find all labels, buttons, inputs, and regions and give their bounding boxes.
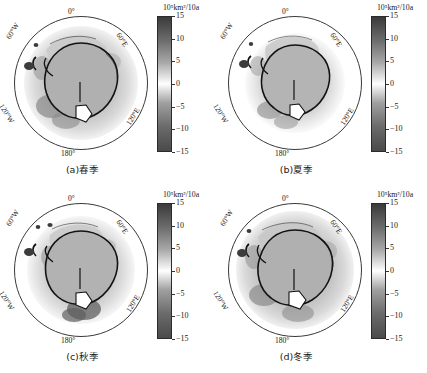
- lon-label-top-autumn: 0°: [68, 194, 75, 203]
- lon-label-bottom-winter: 180°: [275, 336, 289, 345]
- lon-label-bottom-summer: 180°: [275, 149, 289, 158]
- panel-caption-summer: (b)夏季: [214, 162, 379, 176]
- colorbar-tick-mark: [172, 84, 175, 85]
- panel-caption-winter: (d)冬季: [214, 349, 379, 363]
- colorbar-tick-label: −15: [390, 148, 403, 156]
- colorbar-tick-mark: [386, 248, 389, 249]
- colorbar-tick-label: 0: [390, 80, 394, 88]
- colorbar-tick-label: 15: [390, 12, 398, 20]
- map-graphic-spring: [6, 10, 156, 158]
- colorbar-tick-label: 15: [176, 199, 184, 207]
- panel-winter: 0° 180° 60°W 60°E 120°W 120°E (d)冬季 10⁵k…: [214, 187, 427, 373]
- colorbar-tick-label: −15: [176, 335, 189, 343]
- map-graphic-summer: [220, 10, 370, 158]
- colorbar-tick-label: −5: [176, 103, 185, 111]
- colorbar-tick-label: 15: [176, 12, 184, 20]
- colorbar-tick-mark: [172, 152, 175, 153]
- colorbar-tick-mark: [386, 61, 389, 62]
- colorbar-tick-label: 5: [176, 244, 180, 252]
- colorbar-tick-label: −10: [176, 125, 189, 133]
- colorbar-tick-mark: [386, 226, 389, 227]
- colorbar-tick-label: −10: [176, 312, 189, 320]
- colorbar-tick-mark: [172, 339, 175, 340]
- colorbar-tick-mark: [386, 339, 389, 340]
- colorbar-group-spring: 10⁵km²/10a 151050−5−10−15: [153, 3, 209, 161]
- colorbar-ticks-spring: 151050−5−10−15: [174, 11, 208, 157]
- colorbar-tick-mark: [172, 316, 175, 317]
- colorbar-tick-label: 0: [176, 80, 180, 88]
- colorbar-tick-label: 10: [390, 222, 398, 230]
- colorbar-autumn: [157, 203, 172, 339]
- colorbar-tick-label: 5: [176, 57, 180, 65]
- map-summer: 0° 180° 60°W 60°E 120°W 120°E: [220, 10, 370, 158]
- colorbar-tick-mark: [172, 107, 175, 108]
- colorbar-tick-label: 5: [390, 57, 394, 65]
- colorbar-tick-mark: [172, 16, 175, 17]
- colorbar-tick-label: −10: [390, 125, 403, 133]
- colorbar-tick-mark: [386, 129, 389, 130]
- colorbar-tick-mark: [172, 226, 175, 227]
- panel-spring: 0° 180° 60°W 60°E 120°W 120°E (a)春季 10⁵k…: [0, 0, 213, 186]
- map-graphic-winter: [220, 197, 370, 345]
- colorbar-tick-label: −15: [390, 335, 403, 343]
- colorbar-ticks-winter: 151050−5−10−15: [388, 198, 422, 344]
- colorbar-tick-label: 5: [390, 244, 394, 252]
- colorbar-tick-label: 0: [176, 267, 180, 275]
- colorbar-group-winter: 10⁵km²/10a 151050−5−10−15: [367, 190, 423, 348]
- colorbar-tick-mark: [386, 271, 389, 272]
- colorbar-group-summer: 10⁵km²/10a 151050−5−10−15: [367, 3, 423, 161]
- colorbar-tick-label: 10: [176, 35, 184, 43]
- map-winter: 0° 180° 60°W 60°E 120°W 120°E: [220, 197, 370, 345]
- colorbar-tick-mark: [386, 316, 389, 317]
- colorbar-tick-mark: [172, 39, 175, 40]
- colorbar-tick-label: −10: [390, 312, 403, 320]
- colorbar-tick-mark: [172, 129, 175, 130]
- colorbar-tick-mark: [386, 203, 389, 204]
- colorbar-tick-mark: [172, 271, 175, 272]
- colorbar-tick-mark: [386, 107, 389, 108]
- panel-autumn: 0° 180° 60°W 60°E 120°W 120°E (c)秋季 10⁵k…: [0, 187, 213, 373]
- colorbar-tick-label: −5: [390, 103, 399, 111]
- colorbar-tick-mark: [172, 248, 175, 249]
- colorbar-tick-mark: [386, 16, 389, 17]
- colorbar-group-autumn: 10⁵km²/10a 151050−5−10−15: [153, 190, 209, 348]
- colorbar-tick-label: −5: [390, 290, 399, 298]
- map-autumn: 0° 180° 60°W 60°E 120°W 120°E: [6, 197, 156, 345]
- colorbar-ticks-summer: 151050−5−10−15: [388, 11, 422, 157]
- colorbar-tick-mark: [386, 84, 389, 85]
- colorbar-tick-label: 10: [176, 222, 184, 230]
- colorbar-summer: [371, 16, 386, 152]
- colorbar-winter: [371, 203, 386, 339]
- panel-caption-autumn: (c)秋季: [0, 349, 165, 363]
- colorbar-tick-label: −5: [176, 290, 185, 298]
- colorbar-tick-mark: [172, 203, 175, 204]
- colorbar-spring: [157, 16, 172, 152]
- lon-label-top-spring: 0°: [68, 7, 75, 16]
- colorbar-tick-mark: [386, 152, 389, 153]
- colorbar-ticks-autumn: 151050−5−10−15: [174, 198, 208, 344]
- colorbar-tick-label: 15: [390, 199, 398, 207]
- colorbar-tick-label: 0: [390, 267, 394, 275]
- colorbar-tick-label: 10: [390, 35, 398, 43]
- colorbar-tick-mark: [172, 294, 175, 295]
- lon-label-top-summer: 0°: [282, 7, 289, 16]
- lon-label-top-winter: 0°: [282, 194, 289, 203]
- panel-summer: 0° 180° 60°W 60°E 120°W 120°E (b)夏季 10⁵k…: [214, 0, 427, 186]
- lon-label-bottom-autumn: 180°: [61, 336, 75, 345]
- colorbar-tick-mark: [386, 39, 389, 40]
- lon-label-bottom-spring: 180°: [61, 149, 75, 158]
- seasonal-sea-ice-trend-figure: 0° 180° 60°W 60°E 120°W 120°E (a)春季 10⁵k…: [0, 0, 427, 373]
- colorbar-tick-mark: [386, 294, 389, 295]
- map-spring: 0° 180° 60°W 60°E 120°W 120°E: [6, 10, 156, 158]
- colorbar-tick-label: −15: [176, 148, 189, 156]
- colorbar-tick-mark: [172, 61, 175, 62]
- map-graphic-autumn: [6, 197, 156, 345]
- panel-caption-spring: (a)春季: [0, 162, 165, 176]
